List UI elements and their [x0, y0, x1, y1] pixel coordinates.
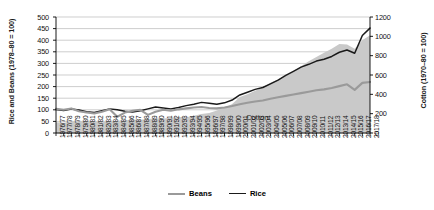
x-tick-label: 2015/16	[357, 116, 364, 138]
x-tick-label: 1995/96	[204, 116, 211, 138]
x-tick-label: 1983/84	[112, 116, 119, 138]
x-tick-label: 1990/91	[166, 116, 173, 138]
x-tick-label: 1982/83	[105, 116, 112, 138]
x-tick-label: 1993/94	[189, 116, 196, 138]
legend-item-beans[interactable]: Beans	[168, 189, 212, 198]
x-tick-label: 1985/86	[128, 116, 135, 138]
x-tick-label: 2009/10	[311, 116, 318, 138]
y-tick-label-left: 350	[23, 47, 49, 56]
x-tick-label: 1991/92	[173, 116, 180, 138]
legend-label-rice: Rice	[250, 189, 266, 198]
x-tick-label: 2007/08	[296, 116, 303, 138]
x-tick-label: 1977/78	[66, 116, 73, 138]
y-tick-label-left: 500	[23, 13, 49, 22]
x-tick-label: 2005/06	[281, 116, 288, 138]
x-tick-label: 1986/87	[135, 116, 142, 138]
x-tick-label: 2010/11	[319, 116, 326, 138]
x-tick-label: 1988/89	[151, 116, 158, 138]
y-tick-label-left: 100	[23, 105, 49, 114]
y-tick-label-left: 0	[23, 129, 49, 138]
y-tick-label-right: 1000	[375, 32, 405, 41]
x-tick-label: 2001/02	[250, 116, 257, 138]
y-tick-label-left: 250	[23, 71, 49, 80]
x-tick-label: 1997/98	[219, 116, 226, 138]
x-tick-label: 2014/15	[350, 116, 357, 138]
x-tick-label: 2012/13	[334, 116, 341, 138]
x-tick-label: 2016/17	[365, 116, 372, 138]
y-tick-label-right: 1200	[375, 13, 405, 22]
x-tick-label: 1987/88	[143, 116, 150, 138]
x-tick-label: 1999/00	[235, 116, 242, 138]
x-tick-label: 1989/90	[158, 116, 165, 138]
x-tick-label: 2013/14	[342, 116, 349, 138]
x-tick-label: 1980/81	[89, 116, 96, 138]
x-tick-label: 1976/77	[59, 116, 66, 138]
y-tick-label-left: 200	[23, 82, 49, 91]
y-tick-label-left: 150	[23, 94, 49, 103]
y-tick-label-left: 450	[23, 24, 49, 33]
x-tick-label: 1981/82	[97, 116, 104, 138]
x-tick-label: 1996/97	[212, 116, 219, 138]
x-tick-label: 2003/04	[265, 116, 272, 138]
x-tick-label: 2006/07	[288, 116, 295, 138]
legend-label-beans: Beans	[189, 189, 212, 198]
legend-swatch-rice-icon	[229, 193, 246, 194]
x-tick-label: 2011/12	[327, 116, 334, 138]
legend-swatch-beans-icon	[168, 193, 185, 195]
x-tick-label: 2004/05	[273, 116, 280, 138]
x-tick-label: 1992/93	[181, 116, 188, 138]
x-tick-label: 1994/95	[196, 116, 203, 138]
y-tick-label-left: 300	[23, 59, 49, 68]
chart-legend: Beans Rice	[0, 189, 434, 198]
x-tick-label: 2008/09	[304, 116, 311, 138]
x-tick-label: 1984/85	[120, 116, 127, 138]
x-tick-label: 2000/01	[242, 116, 249, 138]
x-tick-label: 2017/18	[373, 116, 380, 138]
x-tick-label: 1978/79	[74, 116, 81, 138]
chart-svg	[0, 0, 434, 210]
y-tick-label-right: 800	[375, 51, 405, 60]
plot-area	[0, 0, 434, 210]
y-tick-label-right: 600	[375, 71, 405, 80]
legend-item-rice[interactable]: Rice	[229, 189, 266, 198]
x-tick-label: 1998/99	[227, 116, 234, 138]
x-tick-label: 1979/80	[82, 116, 89, 138]
y-tick-label-left: 400	[23, 36, 49, 45]
chart-container: Rice and Beans (1978–80 = 100) Cotton (1…	[0, 0, 434, 210]
x-tick-label: 2002/03	[258, 116, 265, 138]
y-tick-label-right: 400	[375, 90, 405, 99]
y-tick-label-left: 50	[23, 117, 49, 126]
